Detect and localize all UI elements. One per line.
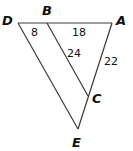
vertex-label-D: D	[2, 13, 13, 28]
vertex-label-B: B	[42, 3, 52, 18]
vertex-label-C: C	[92, 91, 102, 106]
segment-DE	[18, 23, 78, 129]
triangle-diagram: D B A C E 8 18 24 22	[0, 0, 133, 151]
measure-AC: 22	[104, 55, 118, 68]
measure-BA: 18	[72, 26, 86, 39]
measure-DB: 8	[31, 26, 38, 39]
measure-BC: 24	[67, 47, 81, 60]
vertex-label-E: E	[72, 135, 81, 150]
vertex-label-A: A	[115, 13, 126, 28]
